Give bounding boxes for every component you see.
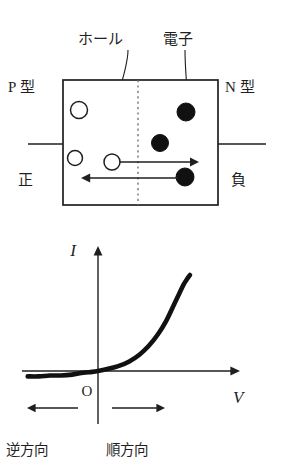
origin-label: O xyxy=(82,383,93,399)
pn-junction-diagram: ホール 電子 P 型 N 型 正 負 xyxy=(8,30,266,205)
diode-iv-curve xyxy=(28,275,190,376)
electron-label: 電子 xyxy=(163,30,193,48)
hole-carrier xyxy=(104,154,120,170)
current-axis-label: I xyxy=(69,241,77,260)
p-type-label: P 型 xyxy=(8,79,35,95)
current-axis-arrowhead xyxy=(94,246,103,256)
electron-carrier xyxy=(152,135,169,152)
n-type-label: N 型 xyxy=(225,79,255,95)
iv-characteristic-chart: I V O 逆方向 順方向 xyxy=(6,241,246,458)
hole-label: ホール xyxy=(78,30,123,48)
hole-carrier xyxy=(71,102,88,119)
hole-carrier xyxy=(68,151,83,166)
semiconductor-body-rect xyxy=(63,80,218,205)
electron-carrier xyxy=(177,103,195,121)
forward-direction-label: 順方向 xyxy=(106,442,148,458)
forward-direction-arrowhead xyxy=(156,404,165,412)
voltage-axis-arrowhead xyxy=(230,367,240,376)
reverse-direction-label: 逆方向 xyxy=(6,442,48,458)
electron-carrier xyxy=(176,168,194,186)
pn-junction-figure: ホール 電子 P 型 N 型 正 負 xyxy=(0,0,294,470)
negative-terminal-label: 負 xyxy=(231,171,246,189)
voltage-axis-label: V xyxy=(233,388,246,407)
reverse-direction-arrowhead xyxy=(27,404,36,412)
positive-terminal-label: 正 xyxy=(18,171,33,189)
